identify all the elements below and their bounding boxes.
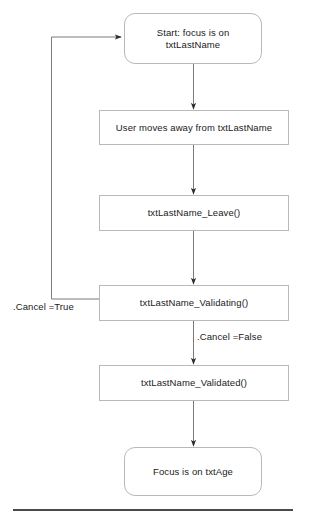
node-start: Start: focus is on txtLastName — [124, 13, 262, 64]
node-validated-event: txtLastName_Validated() — [99, 365, 289, 401]
node-start-label: Start: focus is on txtLastName — [125, 27, 261, 51]
flow-connectors — [0, 0, 309, 517]
node-validating-event-label: txtLastName_Validating() — [136, 297, 252, 309]
connector-validating-to-start-loop — [52, 37, 122, 299]
edge-label-cancel-true: .Cancel =True — [13, 301, 74, 313]
edge-label-cancel-false: .Cancel =False — [197, 331, 262, 343]
node-end: Focus is on txtAge — [124, 447, 262, 496]
node-end-label: Focus is on txtAge — [149, 466, 237, 478]
node-leave-event: txtLastName_Leave() — [99, 195, 289, 231]
flowchart-page: Start: focus is on txtLastName User move… — [0, 0, 309, 517]
node-user-moves-away-label: User moves away from txtLastName — [112, 122, 276, 134]
node-user-moves-away: User moves away from txtLastName — [99, 110, 289, 145]
node-validated-event-label: txtLastName_Validated() — [137, 377, 251, 389]
node-validating-event: txtLastName_Validating() — [99, 285, 289, 321]
node-leave-event-label: txtLastName_Leave() — [144, 207, 245, 219]
bottom-divider — [13, 509, 293, 511]
